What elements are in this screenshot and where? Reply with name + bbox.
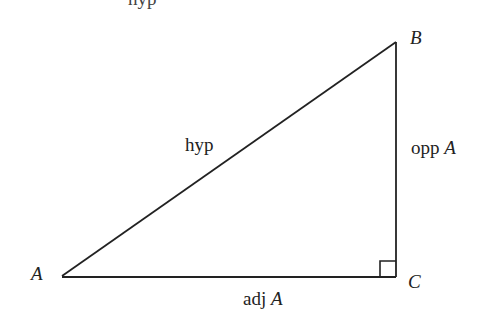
opposite-label-var: A bbox=[444, 137, 456, 158]
vertex-label-c: C bbox=[408, 272, 421, 291]
opposite-label-text: opp bbox=[411, 137, 440, 158]
side-hypotenuse bbox=[62, 42, 396, 276]
hypotenuse-label: hyp bbox=[185, 135, 214, 154]
opposite-label: opp A bbox=[411, 138, 456, 157]
right-triangle-diagram bbox=[0, 0, 496, 331]
vertex-label-b: B bbox=[410, 28, 422, 47]
adjacent-label-var: A bbox=[271, 288, 283, 309]
adjacent-label: adj A bbox=[243, 289, 283, 308]
adjacent-label-text: adj bbox=[243, 288, 266, 309]
right-angle-marker bbox=[380, 261, 396, 277]
vertex-label-a: A bbox=[31, 264, 43, 283]
